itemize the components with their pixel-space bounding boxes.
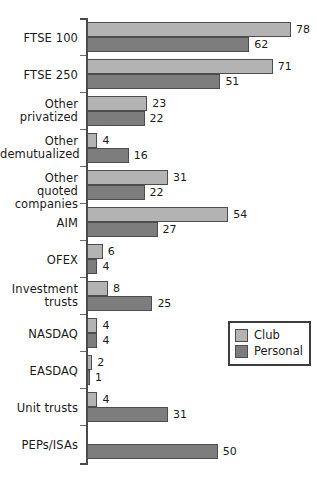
bar-value-label: 25 <box>157 297 171 310</box>
bar-club[interactable] <box>87 170 168 185</box>
axis-tick <box>80 166 86 167</box>
bar-value-label: 50 <box>223 445 237 458</box>
category-label-line: OFEX <box>0 254 78 267</box>
axis-tick <box>80 351 86 352</box>
category-label: NASDAQ <box>0 328 78 341</box>
category-label-line: companies <box>0 198 78 211</box>
bar-club[interactable] <box>87 96 147 111</box>
axis-tick <box>80 240 86 241</box>
bar-personal[interactable] <box>87 444 218 459</box>
axis-tick <box>80 388 86 389</box>
category-label: PEPs/ISAs <box>0 439 78 452</box>
bar-club[interactable] <box>87 244 103 259</box>
axis-tick <box>80 129 86 130</box>
bar-value-label: 31 <box>173 408 187 421</box>
category-label: Investmenttrusts <box>0 283 78 309</box>
bar-value-label: 23 <box>152 97 166 110</box>
bar-value-label: 4 <box>102 134 109 147</box>
legend-item-club[interactable]: Club <box>235 328 303 343</box>
category-label: AIM <box>0 217 78 230</box>
category-label-line: Unit trusts <box>0 402 78 415</box>
legend-swatch-personal-icon <box>235 345 248 358</box>
bar-personal[interactable] <box>87 370 90 385</box>
category-label: Otherdemutualized <box>0 135 78 161</box>
category-label-line: trusts <box>0 296 78 309</box>
axis-tick <box>80 425 86 426</box>
category-label-line: AIM <box>0 217 78 230</box>
bar-club[interactable] <box>87 59 273 74</box>
bar-club[interactable] <box>87 281 108 296</box>
axis-tick <box>80 55 86 56</box>
category-label: FTSE 250 <box>0 69 78 82</box>
bar-value-label: 4 <box>102 319 109 332</box>
bar-club[interactable] <box>87 207 228 222</box>
category-label: OFEX <box>0 254 78 267</box>
category-label-line: PEPs/ISAs <box>0 439 78 452</box>
bar-club[interactable] <box>87 355 92 370</box>
bar-personal[interactable] <box>87 185 145 200</box>
bar-value-label: 8 <box>113 282 120 295</box>
category-label-line: FTSE 250 <box>0 69 78 82</box>
bar-value-label: 78 <box>296 23 310 36</box>
bar-personal[interactable] <box>87 222 158 237</box>
bar-value-label: 22 <box>150 112 164 125</box>
bar-personal[interactable] <box>87 148 129 163</box>
bar-personal[interactable] <box>87 74 220 89</box>
bar-value-label: 31 <box>173 171 187 184</box>
category-label-line: EASDAQ <box>0 365 78 378</box>
bar-value-label: 71 <box>278 60 292 73</box>
bar-value-label: 4 <box>102 260 109 273</box>
bar-personal[interactable] <box>87 407 168 422</box>
category-label-line: Other quoted <box>0 172 78 198</box>
category-label-line: privatized <box>0 111 78 124</box>
bar-club[interactable] <box>87 22 291 37</box>
axis-cap-top <box>80 18 88 20</box>
category-label-line: NASDAQ <box>0 328 78 341</box>
bar-value-label: 51 <box>225 75 239 88</box>
category-label: FTSE 100 <box>0 32 78 45</box>
chart-legend: Club Personal <box>228 321 311 366</box>
axis-tick <box>80 277 86 278</box>
bar-value-label: 16 <box>134 149 148 162</box>
category-label-line: demutualized <box>0 148 78 161</box>
category-label: Other quotedcompanies <box>0 172 78 211</box>
category-label: Unit trusts <box>0 402 78 415</box>
axis-tick <box>80 314 86 315</box>
bar-value-label: 54 <box>233 208 247 221</box>
category-label: Otherprivatized <box>0 98 78 124</box>
bar-club[interactable] <box>87 318 97 333</box>
bar-club[interactable] <box>87 392 97 407</box>
axis-tick <box>80 92 86 93</box>
legend-label-club: Club <box>254 329 280 342</box>
bar-value-label: 27 <box>163 223 177 236</box>
bar-club[interactable] <box>87 133 97 148</box>
bar-value-label: 62 <box>254 38 268 51</box>
bar-value-label: 2 <box>97 356 104 369</box>
category-label-line: FTSE 100 <box>0 32 78 45</box>
bar-personal[interactable] <box>87 111 145 126</box>
axis-cap-bottom <box>80 463 88 465</box>
legend-label-personal: Personal <box>254 345 303 358</box>
bar-value-label: 1 <box>95 371 102 384</box>
category-label: EASDAQ <box>0 365 78 378</box>
bar-value-label: 4 <box>102 334 109 347</box>
legend-item-personal[interactable]: Personal <box>235 344 303 359</box>
bar-value-label: 6 <box>108 245 115 258</box>
axis-tick <box>80 203 86 204</box>
bar-personal[interactable] <box>87 333 97 348</box>
bar-value-label: 4 <box>102 393 109 406</box>
legend-swatch-club-icon <box>235 329 248 342</box>
bar-personal[interactable] <box>87 296 152 311</box>
bar-personal[interactable] <box>87 259 97 274</box>
bar-personal[interactable] <box>87 37 249 52</box>
bar-value-label: 22 <box>150 186 164 199</box>
bar-chart: FTSE 1007862FTSE 2507151Otherprivatized2… <box>0 0 317 481</box>
